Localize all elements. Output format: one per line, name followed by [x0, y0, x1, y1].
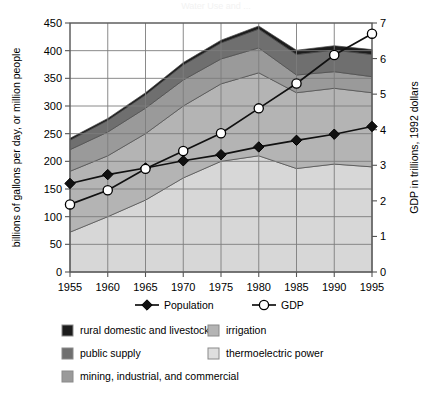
legend-item-rural-domestic-and-livestock[interactable]: rural domestic and livestock	[62, 324, 210, 336]
ytick-label-250: 250	[44, 128, 62, 140]
marker-gdp-1965	[141, 164, 150, 173]
marker-gdp-1955	[65, 200, 74, 209]
legend-item-irrigation[interactable]: irrigation	[208, 324, 266, 336]
xtick-label-1965: 1965	[133, 281, 157, 293]
legend-swatch-irrigation	[208, 325, 219, 336]
marker-gdp-1970	[179, 146, 188, 155]
legend-label-population: Population	[164, 299, 214, 311]
legend-swatch-rural-domestic-and-livestock	[62, 325, 73, 336]
ytick-label-50: 50	[50, 238, 62, 250]
ytick-label-0: 0	[56, 266, 62, 278]
marker-gdp-1995	[367, 29, 376, 38]
xtick-label-1995: 1995	[360, 281, 384, 293]
xtick-label-1955: 1955	[58, 281, 82, 293]
y2tick-label-1: 1	[380, 230, 386, 242]
xtick-label-1985: 1985	[284, 281, 308, 293]
y2tick-label-5: 5	[380, 88, 386, 100]
ytick-label-100: 100	[44, 211, 62, 223]
legend-label-mining-industrial-and-commercial: mining, industrial, and commercial	[80, 370, 239, 382]
plot-area: 0501001502002503003504004500123456719551…	[10, 17, 420, 293]
legend-swatch-mining-industrial-and-commercial	[62, 371, 73, 382]
y2tick-label-7: 7	[380, 17, 386, 29]
marker-gdp-1985	[292, 79, 301, 88]
ytick-label-300: 300	[44, 100, 62, 112]
xtick-label-1960: 1960	[96, 281, 120, 293]
y2tick-label-6: 6	[380, 53, 386, 65]
y-axis-title: billions of gallons per day, or million …	[10, 48, 22, 248]
legend-label-gdp: GDP	[281, 299, 304, 311]
y2-axis-title: GDP in trillions, 1992 dollars	[408, 81, 420, 213]
ytick-label-450: 450	[44, 17, 62, 29]
legend-item-thermoelectric-power[interactable]: thermoelectric power	[208, 347, 324, 359]
xtick-label-1980: 1980	[247, 281, 271, 293]
xtick-label-1970: 1970	[171, 281, 195, 293]
ytick-label-350: 350	[44, 72, 62, 84]
marker-gdp-1975	[216, 129, 225, 138]
ytick-label-400: 400	[44, 45, 62, 57]
legend-item-population[interactable]: Population	[135, 299, 214, 311]
legend-item-mining-industrial-and-commercial[interactable]: mining, industrial, and commercial	[62, 370, 239, 382]
legend-label-rural-domestic-and-livestock: rural domestic and livestock	[80, 324, 210, 336]
ytick-label-150: 150	[44, 183, 62, 195]
marker-gdp-1980	[254, 104, 263, 113]
marker-gdp-1960	[103, 186, 112, 195]
y2tick-label-4: 4	[380, 124, 386, 136]
marker-gdp-1990	[330, 50, 339, 59]
legend-marker-gdp	[259, 300, 268, 309]
chart-title: Water Use and ...	[181, 1, 251, 11]
y2tick-label-2: 2	[380, 195, 386, 207]
y2tick-label-0: 0	[380, 266, 386, 278]
legend-label-public-supply: public supply	[80, 347, 141, 359]
legend-label-irrigation: irrigation	[226, 324, 266, 336]
water-use-gdp-chart: Water Use and ... 0501001502002503003504…	[0, 0, 433, 398]
xtick-label-1975: 1975	[209, 281, 233, 293]
y2tick-label-3: 3	[380, 159, 386, 171]
legend-label-thermoelectric-power: thermoelectric power	[226, 347, 324, 359]
xtick-label-1990: 1990	[322, 281, 346, 293]
legend-swatch-thermoelectric-power	[208, 348, 219, 359]
legend-swatch-public-supply	[62, 348, 73, 359]
ytick-label-200: 200	[44, 155, 62, 167]
